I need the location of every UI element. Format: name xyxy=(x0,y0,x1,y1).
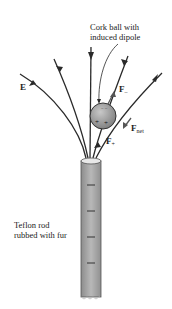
ball-negative-charges: – – xyxy=(100,105,108,110)
cork-ball-label-line2: induced dipole xyxy=(90,32,140,42)
field-lines xyxy=(20,47,162,158)
force-plus-label: F+ xyxy=(106,136,115,149)
field-line-center xyxy=(90,47,91,158)
rod-label: Teflon rod rubbed with fur xyxy=(14,220,67,240)
force-net-subscript: net xyxy=(137,128,144,134)
ball-positive-charge-left: + xyxy=(95,118,99,126)
ball-positive-charge-right: + xyxy=(104,119,108,127)
force-plus-subscript: + xyxy=(112,141,115,147)
arrow-icon xyxy=(88,52,94,60)
force-net-label: Fnet xyxy=(131,123,144,136)
rod-label-line1: Teflon rod xyxy=(14,220,67,230)
force-minus-subscript: – xyxy=(125,89,128,95)
teflon-rod-top xyxy=(81,158,101,164)
cork-ball-label: Cork ball with induced dipole xyxy=(90,22,140,42)
field-line-left xyxy=(54,59,88,158)
rod-label-line2: rubbed with fur xyxy=(14,230,67,240)
teflon-rod xyxy=(81,161,101,297)
force-minus-label: F– xyxy=(119,84,128,97)
field-label: E xyxy=(20,82,26,92)
field-diagram: – – + + xyxy=(0,0,172,309)
leader-line xyxy=(99,44,118,102)
arrow-icon xyxy=(56,66,63,72)
cork-ball-label-line1: Cork ball with xyxy=(90,22,140,32)
arrow-icon xyxy=(94,142,101,148)
